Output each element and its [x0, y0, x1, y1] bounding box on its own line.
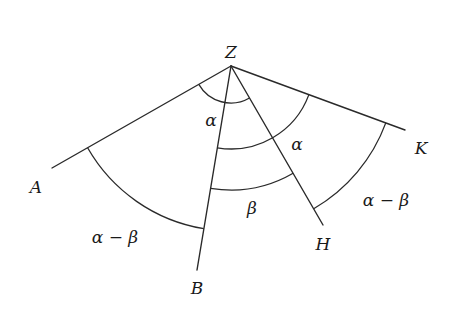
ray-zh	[231, 66, 323, 225]
ray-za	[52, 66, 231, 168]
label-b: B	[190, 278, 204, 298]
angle-label-alpha-inner: α	[205, 110, 217, 130]
label-h: H	[315, 234, 332, 254]
arc-beta	[211, 173, 294, 190]
ray-zk	[231, 66, 405, 130]
ray-zb	[197, 66, 231, 270]
label-z: Z	[224, 42, 238, 62]
angle-diagram: Z A B H K α α β α − β α − β	[0, 0, 449, 310]
arc-alpha-inner	[199, 84, 250, 103]
angle-label-beta: β	[246, 198, 257, 218]
angle-label-alpha-outer: α	[291, 134, 303, 154]
label-k: K	[414, 138, 429, 158]
angle-label-alpha-minus-beta-left: α − β	[92, 227, 139, 247]
label-a: A	[28, 177, 42, 197]
arc-alpha-minus-beta-left	[88, 148, 204, 229]
angle-label-alpha-minus-beta-right: α − β	[363, 190, 410, 210]
